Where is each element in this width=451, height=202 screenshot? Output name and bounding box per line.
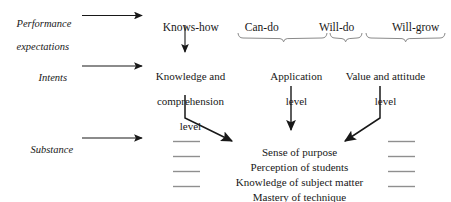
substance-item-mastery-of-technique: Mastery of technique	[242, 179, 346, 202]
concept-diagram: Performance expectations Intents Substan…	[0, 0, 451, 202]
row-label-intents: Intents	[28, 60, 67, 95]
column-header-can-do: Can-do	[233, 8, 278, 47]
column-header-will-grow-label: Will-grow	[392, 21, 439, 33]
substance-item-mastery-of-technique-label: Mastery of technique	[253, 191, 346, 202]
node-value-attitude-level-line1: Value and attitude	[346, 70, 425, 82]
node-application-level: Application level	[260, 58, 322, 120]
row-label-performance-expectations-line1: Performance	[17, 18, 72, 29]
row-label-substance: Substance	[20, 132, 73, 167]
node-knowledge-comprehension-level-line2: comprehension	[157, 95, 224, 107]
column-header-knows-how-label: Knows-how	[163, 21, 219, 33]
column-header-will-do: Will-do	[308, 8, 355, 47]
column-header-can-do-label: Can-do	[245, 21, 279, 33]
row-label-performance-expectations: Performance expectations	[6, 6, 71, 65]
column-header-will-grow: Will-grow	[381, 8, 440, 47]
node-knowledge-comprehension-level: Knowledge and comprehension level	[145, 58, 225, 144]
node-application-level-line1: Application	[270, 70, 322, 82]
row-label-performance-expectations-line2: expectations	[17, 41, 69, 52]
node-value-attitude-level-line2: level	[375, 95, 396, 107]
row-label-intents-line1: Intents	[39, 72, 68, 83]
row-label-substance-line1: Substance	[31, 144, 74, 155]
node-value-attitude-level: Value and attitude level	[335, 58, 425, 120]
column-header-knows-how: Knows-how	[151, 8, 219, 47]
node-knowledge-comprehension-level-line1: Knowledge and	[156, 70, 225, 82]
node-application-level-line2: level	[286, 95, 307, 107]
column-header-will-do-label: Will-do	[319, 21, 354, 33]
node-knowledge-comprehension-level-line3: level	[180, 120, 201, 132]
